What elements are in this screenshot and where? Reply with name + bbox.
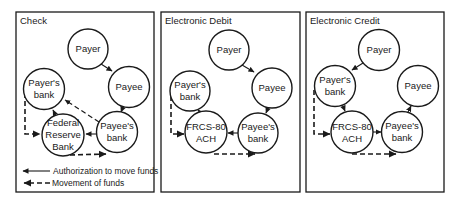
- node-payees-bank: Payee's bank: [97, 112, 138, 153]
- svg-text:Payee's: Payee's: [100, 120, 134, 131]
- node-payers-bank: Payer's bank: [170, 71, 210, 111]
- payment-flow-diagram: Check Payer Payee Payer's bank Federal R…: [0, 0, 460, 199]
- panel-title: Check: [20, 15, 47, 26]
- node-payees-bank: Payee's bank: [238, 113, 278, 153]
- svg-text:Reserve: Reserve: [45, 129, 80, 140]
- svg-text:bank: bank: [248, 133, 269, 144]
- svg-text:Payer's: Payer's: [319, 74, 351, 85]
- node-payee: Payee: [252, 68, 292, 108]
- svg-text:ACH: ACH: [342, 133, 362, 144]
- panel-electronic-debit: Electronic Debit Payer Payee Payer's ban…: [161, 12, 300, 192]
- svg-text:FRCS-80: FRCS-80: [186, 121, 226, 132]
- node-payer: Payer: [209, 30, 249, 70]
- svg-text:ACH: ACH: [196, 133, 216, 144]
- svg-text:Payee: Payee: [405, 80, 432, 91]
- svg-text:bank: bank: [107, 132, 128, 143]
- svg-text:FRCS-80: FRCS-80: [332, 121, 372, 132]
- node-payer: Payer: [359, 30, 400, 71]
- svg-text:Payer: Payer: [367, 44, 392, 55]
- svg-text:Payer's: Payer's: [28, 77, 60, 88]
- node-payer: Payer: [68, 29, 108, 69]
- svg-text:Payer's: Payer's: [174, 79, 206, 90]
- node-frcs80-ach: FRCS-80 ACH: [331, 111, 373, 153]
- node-payee: Payee: [109, 67, 150, 108]
- svg-text:bank: bank: [180, 91, 201, 102]
- legend-authorization-label: Authorization to move funds: [53, 166, 158, 176]
- panel-title: Electronic Credit: [310, 15, 380, 26]
- legend-funds-label: Movement of funds: [52, 178, 124, 188]
- svg-text:Payer: Payer: [76, 43, 101, 54]
- node-frcs80-ach: FRCS-80 ACH: [185, 111, 227, 153]
- node-payee: Payee: [398, 66, 439, 107]
- svg-text:Payee: Payee: [116, 81, 143, 92]
- node-payees-bank: Payee's bank: [382, 112, 423, 153]
- svg-text:Payee's: Payee's: [385, 120, 419, 131]
- node-federal-reserve-bank: Federal Reserve Bank: [42, 114, 84, 156]
- svg-text:Federal: Federal: [47, 117, 79, 128]
- svg-text:bank: bank: [325, 86, 346, 97]
- node-payers-bank: Payer's bank: [24, 69, 65, 110]
- svg-text:Payer: Payer: [217, 44, 242, 55]
- node-payers-bank: Payer's bank: [315, 66, 356, 107]
- svg-text:Bank: Bank: [52, 141, 74, 152]
- svg-text:Payee: Payee: [259, 82, 286, 93]
- panel-check: Check Payer Payee Payer's bank Federal R…: [16, 12, 158, 192]
- panel-title: Electronic Debit: [165, 15, 232, 26]
- svg-text:bank: bank: [34, 89, 55, 100]
- svg-text:Payee's: Payee's: [241, 121, 275, 132]
- panel-electronic-credit: Electronic Credit Payer Payee Payer's ba…: [306, 12, 444, 192]
- svg-text:bank: bank: [392, 132, 413, 143]
